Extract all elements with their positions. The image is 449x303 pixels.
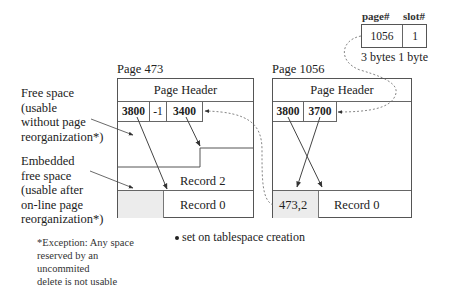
embedded-line-3: (usable after (21, 183, 131, 198)
exception-line-4: delete is not usable (37, 275, 167, 288)
exception-line-1: *Exception: Any space (37, 236, 167, 249)
free-space-line-3: without page (21, 115, 131, 130)
embedded-free-space-annotation: Embedded free space (usable after on-lin… (21, 154, 131, 227)
embedded-line-5: reorganization*) (21, 212, 131, 227)
embedded-line-4: on-line page (21, 198, 131, 213)
embedded-line-1: Embedded (21, 154, 131, 169)
exception-line-2: reserved by an (37, 249, 167, 262)
free-space-annotation: Free space (usable without page reorgani… (21, 86, 131, 144)
free-space-line-2: (usable (21, 101, 131, 116)
bullet-icon (175, 236, 179, 240)
bullet-note-text: set on tablespace creation (182, 230, 305, 244)
exception-footnote: *Exception: Any space reserved by an unc… (37, 236, 167, 288)
embedded-line-2: free space (21, 169, 131, 184)
bullet-note: set on tablespace creation (175, 231, 305, 243)
free-space-line-4: reorganization*) (21, 130, 131, 145)
free-space-line-1: Free space (21, 86, 131, 101)
exception-line-3: uncommited (37, 262, 167, 275)
